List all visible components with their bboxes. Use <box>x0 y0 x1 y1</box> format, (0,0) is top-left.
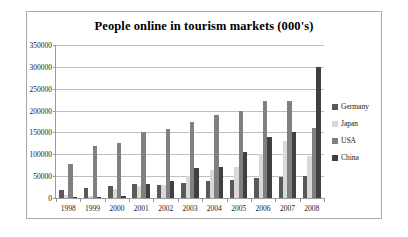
bar-group <box>80 45 104 198</box>
bar-group <box>202 45 226 198</box>
bar-group <box>105 45 129 198</box>
bar-group <box>300 45 324 198</box>
chart-legend: GermanyJapanUSAChina <box>332 98 380 166</box>
legend-item-usa[interactable]: USA <box>332 132 380 149</box>
x-axis-tickmark <box>300 198 301 202</box>
y-axis-tick-label: 250000 <box>30 84 53 93</box>
y-axis-tick-label: 150000 <box>30 128 53 137</box>
bar-china-2001 <box>146 184 150 198</box>
bar-china-2000 <box>121 196 125 198</box>
legend-label: USA <box>341 136 356 145</box>
plot-area: 0500001000001500002000002500003000003500… <box>55 45 324 199</box>
x-axis-tick-label: 2001 <box>129 204 153 213</box>
legend-item-germany[interactable]: Germany <box>332 98 380 115</box>
x-axis-tick-label: 2007 <box>275 204 299 213</box>
bar-china-2005 <box>243 152 247 198</box>
legend-label: Japan <box>341 119 358 128</box>
x-axis-tick-label: 2004 <box>202 204 226 213</box>
bar-group <box>275 45 299 198</box>
legend-label: Germany <box>341 102 369 111</box>
bar-group <box>178 45 202 198</box>
x-axis-tickmark <box>129 198 130 202</box>
x-axis-tick-label: 2003 <box>178 204 202 213</box>
legend-item-china[interactable]: China <box>332 149 380 166</box>
bar-group <box>153 45 177 198</box>
x-axis-tickmark <box>153 198 154 202</box>
x-axis-tickmark <box>80 198 81 202</box>
bar-china-2006 <box>267 137 271 198</box>
x-axis-tick-label: 2000 <box>105 204 129 213</box>
y-axis-tick-label: 200000 <box>30 106 53 115</box>
bar-group <box>56 45 80 198</box>
x-axis-tickmark <box>105 198 106 202</box>
y-axis-tick-label: 350000 <box>30 41 53 50</box>
x-axis-tick-label: 2002 <box>153 204 177 213</box>
bar-group <box>227 45 251 198</box>
bar-groups <box>56 45 324 198</box>
bar-china-1998 <box>73 197 77 198</box>
legend-swatch-icon <box>332 138 338 144</box>
bar-china-2003 <box>194 168 198 198</box>
bar-china-2007 <box>292 132 296 198</box>
x-axis-tickmark <box>227 198 228 202</box>
bar-china-2002 <box>170 181 174 198</box>
x-axis-tick-label: 2005 <box>227 204 251 213</box>
x-axis-tick-label: 1999 <box>80 204 104 213</box>
y-axis-tick-label: 50000 <box>33 172 52 181</box>
legend-swatch-icon <box>332 155 338 161</box>
chart-container: People online in tourism markets (000's)… <box>26 11 382 219</box>
legend-label: China <box>341 153 359 162</box>
legend-swatch-icon <box>332 104 338 110</box>
x-axis-tickmark <box>251 198 252 202</box>
x-axis-tickmark <box>56 198 57 202</box>
x-axis-tick-label: 1998 <box>56 204 80 213</box>
x-axis-tickmark <box>275 198 276 202</box>
x-axis-tickmark <box>178 198 179 202</box>
y-axis-tick-label: 100000 <box>30 150 53 159</box>
bar-usa-1998 <box>68 164 72 198</box>
x-axis-tick-label: 2008 <box>300 204 324 213</box>
y-axis-tick-label: 300000 <box>30 62 53 71</box>
bar-china-1999 <box>97 197 101 198</box>
x-axis-tick-label: 2006 <box>251 204 275 213</box>
bar-china-2004 <box>219 167 223 198</box>
bar-usa-2000 <box>117 143 121 198</box>
bar-group <box>251 45 275 198</box>
chart-title: People online in tourism markets (000's) <box>27 19 381 34</box>
y-axis-tick-label: 0 <box>48 194 52 203</box>
legend-item-japan[interactable]: Japan <box>332 115 380 132</box>
x-axis-tickmark <box>324 198 325 202</box>
bar-usa-1999 <box>93 146 97 198</box>
bar-group <box>129 45 153 198</box>
legend-swatch-icon <box>332 121 338 127</box>
x-axis-tickmark <box>202 198 203 202</box>
bar-china-2008 <box>316 67 320 198</box>
